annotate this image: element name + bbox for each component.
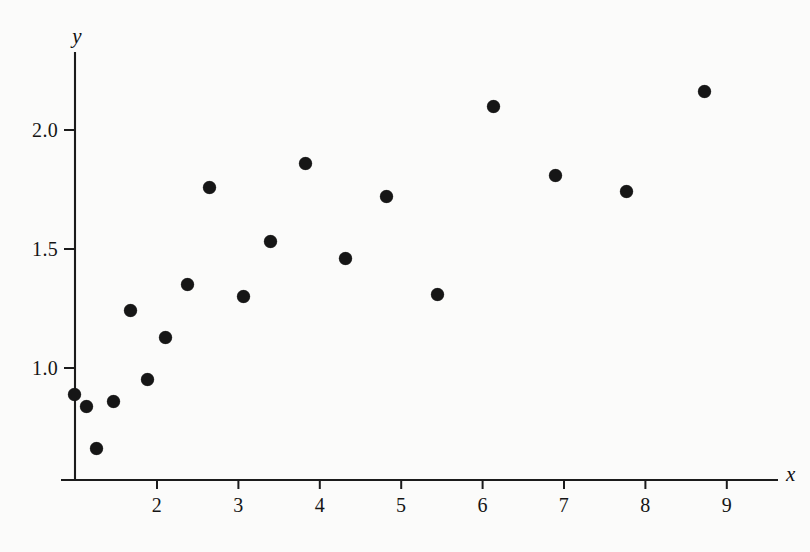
x-tick-label: 2: [152, 494, 162, 517]
x-tick-label: 4: [315, 494, 325, 517]
data-point: [124, 304, 137, 317]
data-point: [549, 169, 562, 182]
x-tick-label: 8: [640, 494, 650, 517]
x-axis-label: x: [786, 462, 795, 487]
y-tick-label: 2.0: [32, 119, 58, 142]
axis-lines: [61, 52, 778, 480]
y-axis-label: y: [72, 24, 81, 49]
data-point: [431, 288, 444, 301]
x-tick-label: 3: [233, 494, 243, 517]
x-tick-label: 9: [722, 494, 732, 517]
axes-layer: [0, 0, 810, 552]
data-point: [487, 100, 500, 113]
data-point: [264, 235, 277, 248]
data-point: [159, 331, 172, 344]
tick-marks: [64, 130, 727, 489]
data-point: [339, 252, 352, 265]
x-tick-label: 5: [396, 494, 406, 517]
x-tick-label: 6: [477, 494, 487, 517]
scatter-plot-figure: 234567891.01.52.0 y x: [0, 0, 810, 552]
data-point: [203, 181, 216, 194]
data-point: [299, 157, 312, 170]
plot-area: 234567891.01.52.0 y x: [0, 0, 810, 552]
y-tick-label: 1.0: [32, 357, 58, 380]
data-point: [68, 388, 81, 401]
y-tick-label: 1.5: [32, 238, 58, 261]
data-point: [237, 290, 250, 303]
x-tick-label: 7: [559, 494, 569, 517]
